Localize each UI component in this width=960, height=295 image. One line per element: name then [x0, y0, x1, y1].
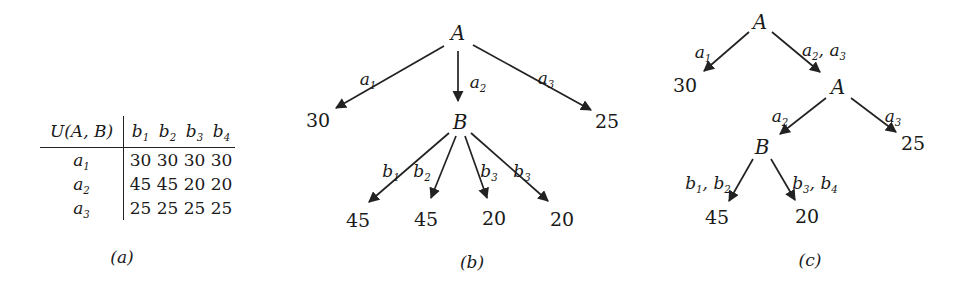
- table-header-row: U(A, B) b1 b2 b3 b4: [40, 116, 235, 148]
- edge-label-b-b3-right: b3: [513, 161, 530, 181]
- table-cell: 45: [154, 172, 181, 196]
- edge-label-b-b3: b3: [480, 161, 497, 181]
- edge-label-c-a2: a2: [772, 106, 789, 126]
- table-cell: 20: [208, 172, 235, 196]
- tree-b-leaf-45-1: 45: [346, 209, 370, 231]
- edge-label-b-a2: a2: [470, 72, 487, 92]
- col-header-b4: b4: [208, 116, 235, 147]
- table-cell: 25: [127, 196, 154, 220]
- edge-b-A-to-30: [336, 46, 444, 108]
- row-a3-values: 25 25 25 25: [123, 196, 235, 220]
- edge-label-b-b2: b2: [413, 161, 430, 181]
- corner-header: U(A, B): [40, 116, 123, 147]
- col-header-b3: b3: [181, 116, 208, 147]
- tree-b-leaf-45-2: 45: [414, 208, 438, 230]
- edge-label-b-b1: b1: [382, 161, 399, 181]
- figure-canvas: U(A, B) b1 b2 b3 b4 a1 30 30 30 30 a2 45…: [0, 0, 960, 295]
- edge-b-B-to-45-1: [369, 133, 449, 202]
- row-a1-values: 30 30 30 30: [123, 148, 235, 172]
- table-cell: 25: [181, 196, 208, 220]
- table-cell: 25: [208, 196, 235, 220]
- caption-b: (b): [460, 252, 484, 272]
- edge-label-c-a3: a3: [885, 106, 902, 126]
- tree-c-leaf-25: 25: [901, 132, 925, 154]
- table-row-a1: a1 30 30 30 30: [40, 148, 235, 172]
- row-label-a3: a3: [40, 196, 123, 220]
- edge-label-c-a2a3: a2, a3: [802, 40, 846, 60]
- header-values: b1 b2 b3 b4: [123, 116, 235, 147]
- payoff-table: U(A, B) b1 b2 b3 b4 a1 30 30 30 30 a2 45…: [40, 116, 235, 220]
- table-row-a2: a2 45 45 20 20: [40, 172, 235, 196]
- table-cell: 30: [127, 148, 154, 172]
- col-header-b1: b1: [127, 116, 154, 147]
- tree-c-node-B: B: [755, 135, 770, 159]
- table-row-a3: a3 25 25 25 25: [40, 196, 235, 220]
- table-cell: 30: [208, 148, 235, 172]
- table-cell: 25: [154, 196, 181, 220]
- edge-label-c-b3b4: b3, b4: [792, 173, 838, 193]
- tree-b-node-B: B: [453, 110, 468, 134]
- row-label-a2: a2: [40, 172, 123, 196]
- table-cell: 45: [127, 172, 154, 196]
- table-cell: 30: [154, 148, 181, 172]
- tree-c-leaf-30: 30: [673, 74, 697, 96]
- tree-c-leaf-20: 20: [795, 205, 819, 227]
- tree-b-root-A: A: [451, 21, 465, 45]
- tree-b-leaf-20-1: 20: [482, 207, 506, 229]
- caption-a: (a): [110, 247, 133, 267]
- tree-c-leaf-45: 45: [705, 206, 729, 228]
- row-label-a1: a1: [40, 148, 123, 172]
- edge-c-B-to-45: [729, 159, 753, 201]
- edge-label-c-b1b2: b1, b2: [685, 173, 731, 193]
- row-a2-values: 45 45 20 20: [123, 172, 235, 196]
- col-header-b2: b2: [154, 116, 181, 147]
- edge-b-A-to-25: [473, 45, 591, 110]
- caption-c: (c): [799, 250, 822, 270]
- edge-label-b-a1: a1: [360, 69, 377, 89]
- edge-label-c-a1: a1: [695, 42, 712, 62]
- table-cell: 20: [181, 172, 208, 196]
- tree-b-leaf-30: 30: [306, 109, 330, 131]
- tree-c-inner-A: A: [831, 75, 845, 99]
- tree-c-root-A: A: [753, 10, 767, 34]
- edge-label-b-a3: a3: [538, 68, 555, 88]
- tree-b-leaf-25: 25: [595, 110, 619, 132]
- table-cell: 30: [181, 148, 208, 172]
- tree-b-leaf-20-2: 20: [550, 208, 574, 230]
